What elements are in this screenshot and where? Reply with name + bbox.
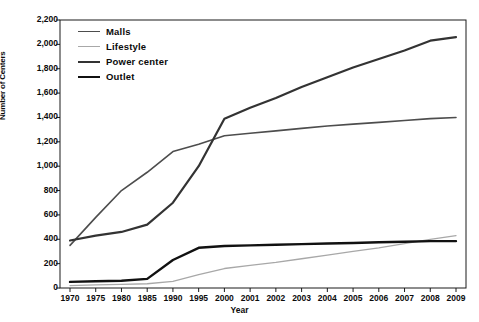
plot-area-svg bbox=[0, 0, 479, 322]
legend-item[interactable]: Lifestyle bbox=[78, 39, 168, 54]
legend-color-swatch-icon bbox=[78, 31, 100, 32]
x-tick-label: 2009 bbox=[439, 293, 473, 303]
legend-color-swatch-icon bbox=[78, 76, 100, 78]
legend-item[interactable]: Power center bbox=[78, 54, 168, 69]
legend-item-label: Outlet bbox=[106, 71, 135, 82]
series-line-outlet bbox=[70, 241, 456, 282]
legend-item[interactable]: Malls bbox=[78, 24, 168, 39]
x-axis-title: Year bbox=[0, 305, 479, 315]
line-chart: Number of Centers 2,2002,0001,8001,6001,… bbox=[0, 0, 479, 322]
legend-item[interactable]: Outlet bbox=[78, 69, 168, 84]
series-line-lifestyle bbox=[70, 236, 456, 286]
legend-item-label: Power center bbox=[106, 56, 168, 67]
legend-color-swatch-icon bbox=[78, 46, 100, 47]
legend-item-label: Malls bbox=[106, 26, 131, 37]
series-line-malls bbox=[70, 117, 456, 245]
legend-item-label: Lifestyle bbox=[106, 41, 146, 52]
legend-color-swatch-icon bbox=[78, 61, 100, 63]
chart-legend: MallsLifestylePower centerOutlet bbox=[78, 24, 168, 84]
